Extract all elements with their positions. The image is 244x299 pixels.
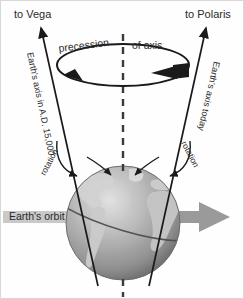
label-of-axis: of axis — [132, 39, 162, 51]
label-to-vega: to Vega — [14, 8, 52, 20]
label-earths-axis-future: Earth's axis in A.D. 15,000 — [25, 51, 57, 156]
precession-diagram: to Vega to Polaris precession of axis Ea… — [0, 0, 244, 299]
label-to-polaris: to Polaris — [185, 8, 231, 20]
label-precession: precession — [58, 36, 110, 54]
diagram-canvas: to Vega to Polaris precession of axis Ea… — [1, 1, 244, 299]
label-earths-orbit: Earth's orbit — [9, 210, 65, 222]
label-rotation-right: rotation — [179, 139, 201, 169]
label-rotation-left: rotation — [38, 147, 60, 177]
label-earths-axis-today: Earth's axis today — [196, 61, 222, 133]
